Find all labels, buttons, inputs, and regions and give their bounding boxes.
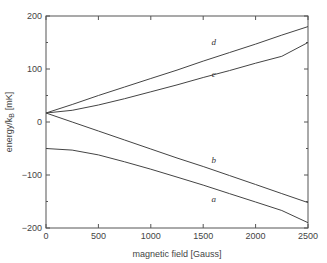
curve-label-b: b [211,155,216,165]
curve-c [46,43,308,114]
curve-label-c: c [212,69,216,79]
y-tick-label: 0 [37,117,42,127]
curves [46,27,308,223]
curve-a [46,149,308,223]
plot-frame [46,16,308,228]
y-tick-label: −200 [22,223,42,233]
x-axis-title: magnetic field [Gauss] [132,249,221,259]
y-tick-label: 200 [27,11,42,21]
x-tick-label: 500 [91,231,106,241]
curve-b [46,113,308,203]
axis-ticks [46,16,308,228]
y-tick-label: −100 [22,170,42,180]
x-tick-labels: 05001000150020002500 [43,231,318,241]
x-tick-label: 0 [43,231,48,241]
y-axis-title: energy/kB[mK] [4,92,15,153]
y-tick-labels: −200−1000100200 [22,11,42,233]
curve-labels: dcba [211,37,216,203]
x-tick-label: 2000 [246,231,266,241]
x-tick-label: 1500 [193,231,213,241]
curve-label-d: d [211,37,216,47]
y-tick-label: 100 [27,64,42,74]
curve-label-a: a [211,194,216,204]
chart: −200−1000100200 05001000150020002500 dcb… [0,0,327,263]
curve-d [46,27,308,113]
x-tick-label: 1000 [141,231,161,241]
x-tick-label: 2500 [298,231,318,241]
